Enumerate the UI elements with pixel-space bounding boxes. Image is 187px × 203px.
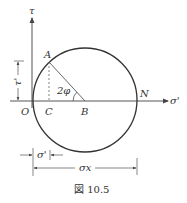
tau-axis-label: τ (29, 5, 35, 16)
angle-label: 2φ (56, 85, 70, 96)
point-a-label: A (43, 49, 51, 60)
figure-caption: 図 10.5 (74, 184, 109, 195)
sigma-prime-label: σ' (37, 149, 47, 160)
mohr-circle-diagram: τ σ' A O C B N 2φ τ' σ' σx 図 10.5 (0, 0, 187, 203)
point-c-label: C (45, 106, 53, 117)
angle-arc (73, 92, 77, 101)
point-b-label: B (80, 106, 88, 117)
sigma-axis-label: σ' (170, 95, 180, 106)
tau-prime-label: τ' (12, 78, 23, 86)
point-o-label: O (21, 106, 29, 117)
sigma-x-label: σx (79, 162, 92, 173)
point-n-label: N (139, 88, 150, 99)
